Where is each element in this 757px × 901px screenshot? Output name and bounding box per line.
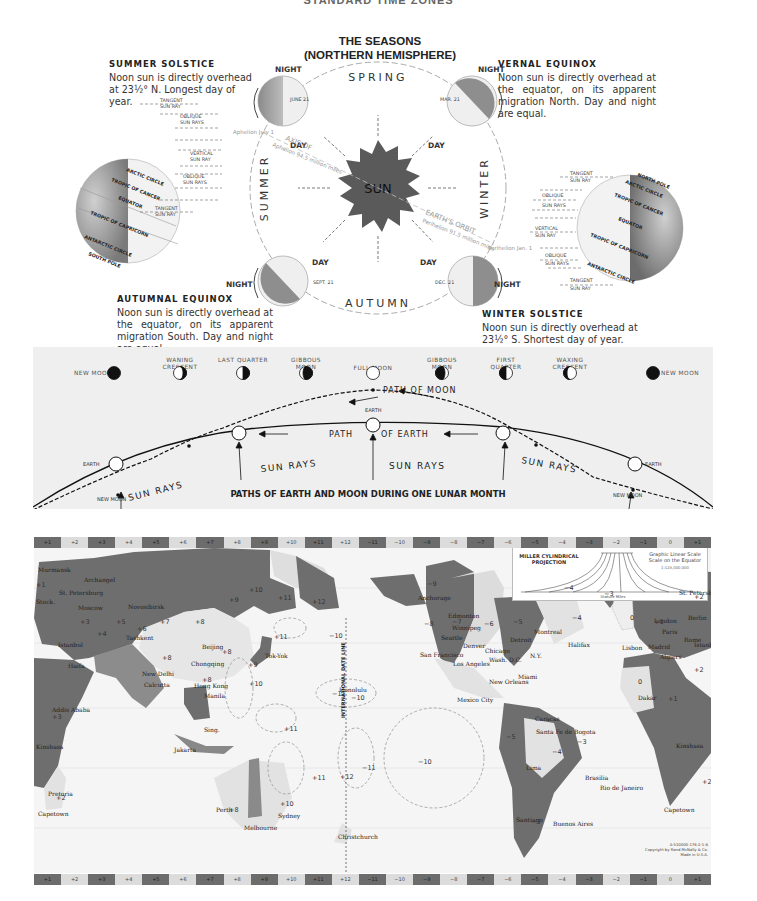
- zone-offset-label: −5: [506, 733, 516, 741]
- zone-offset-label: +2: [702, 778, 711, 786]
- zone-cell: +10: [278, 874, 305, 885]
- path-of-earth-label-1: PATH: [329, 430, 353, 439]
- city-label: N.Y.: [530, 652, 542, 659]
- city-label: Stock.: [36, 598, 55, 605]
- svg-text:SUN RAY: SUN RAY: [160, 104, 181, 109]
- zone-cell: −7: [467, 874, 494, 885]
- sun-label: SUN: [364, 181, 392, 196]
- svg-text:VERTICAL: VERTICAL: [535, 226, 558, 231]
- city-label: Santa Fe de Bogota: [536, 728, 596, 735]
- earth-label-2: EARTH: [365, 407, 382, 413]
- city-label: Algiers: [660, 653, 682, 660]
- dec-date: DEC. 21: [435, 280, 454, 285]
- international-date-line-label: INTERNATIONAL DATE LINE: [340, 642, 346, 718]
- zone-cell: +5: [142, 537, 169, 548]
- city-label: Calcutta: [144, 681, 170, 688]
- perihelion-label: Perihelion Jan. 1: [488, 245, 532, 252]
- city-label: Los Angeles: [453, 660, 490, 667]
- zone-offset-label: +12: [312, 598, 326, 606]
- svg-text:SUN RAYS: SUN RAYS: [183, 180, 207, 185]
- zone-offset-label: +2: [56, 794, 66, 802]
- zone-offset-label: +1: [36, 581, 46, 589]
- gibbous-waxing-icon: [436, 367, 449, 380]
- city-label: Caracas: [535, 715, 560, 722]
- zone-offset-label: +11: [274, 633, 288, 641]
- zone-offset-label: +12: [340, 773, 354, 781]
- city-label: Sing.: [204, 726, 220, 733]
- june-night-label: NIGHT: [275, 65, 303, 74]
- city-label: Addis Ababa: [52, 706, 90, 713]
- zone-offset-label: −3: [604, 590, 614, 598]
- zone-cell: +1: [34, 874, 61, 885]
- march-date: MAR. 21: [440, 97, 460, 102]
- zone-offset-label: +8: [222, 648, 232, 656]
- sept-date: SEPT. 21: [313, 280, 333, 285]
- city-label: Kinshasa: [676, 742, 703, 749]
- zone-cell: +12: [332, 874, 359, 885]
- zone-offset-label: +9: [248, 661, 258, 669]
- zone-cell: −3: [576, 537, 603, 548]
- city-label: Melbourne: [244, 824, 277, 831]
- march-day-label: DAY: [428, 141, 445, 150]
- autumn-label: AUTUMN: [345, 297, 411, 310]
- map-credit: A-510000-176-2-1-8 Copyright by Rand McN…: [644, 842, 708, 857]
- city-label: Capetown: [38, 810, 69, 817]
- zone-offset-label: −9: [427, 580, 437, 588]
- lunar-caption: PATHS OF EARTH AND MOON DURING ONE LUNAR…: [230, 489, 505, 499]
- zone-cell: −9: [413, 874, 440, 885]
- city-label: Sydney: [278, 812, 300, 819]
- zone-offset-label: −3: [531, 818, 541, 826]
- city-label: Buenos Aires: [553, 820, 593, 827]
- zone-cell: −3: [576, 874, 603, 885]
- svg-text:TANGENT: TANGENT: [154, 206, 178, 211]
- waxing-crescent-icon: [564, 367, 577, 380]
- svg-text:TANGENT: TANGENT: [569, 171, 593, 176]
- zone-cell: −4: [548, 537, 575, 548]
- zone-cell: +9: [251, 874, 278, 885]
- zone-cell: −2: [603, 874, 630, 885]
- city-label: Istanbul: [694, 641, 711, 648]
- lunar-month-diagram: NEW MOON WANING CRESCENT LAST QUARTER GI…: [33, 347, 713, 509]
- world-map: INTERNATIONAL DATE LINE MILLER CYLINDRIC…: [34, 548, 711, 873]
- city-label: Anchorage: [418, 594, 451, 601]
- zone-offset-label: −3: [577, 738, 587, 746]
- city-label: Christchurch: [338, 833, 378, 840]
- march-night-label: NIGHT: [478, 65, 506, 74]
- city-label: Rio de Janeiro: [600, 784, 643, 791]
- earth-label-3: EARTH: [645, 461, 662, 467]
- zone-offset-label: +8: [202, 676, 212, 684]
- city-label: Wash. D.C.: [489, 656, 522, 663]
- zone-offset-label: −5: [513, 618, 523, 626]
- zone-cell: +6: [169, 874, 196, 885]
- city-label: Archangel: [84, 576, 115, 583]
- zone-offset-label: 0: [630, 614, 634, 622]
- svg-text:OBLIQUE: OBLIQUE: [183, 174, 204, 179]
- zone-cell: +11: [305, 874, 332, 885]
- zone-offset-label: +1: [668, 695, 678, 703]
- zone-cell: +9: [251, 537, 278, 548]
- city-label: Lisbon: [622, 644, 642, 651]
- city-label: Brasilia: [585, 774, 608, 781]
- zone-cell: 0: [657, 537, 684, 548]
- zone-cell: −5: [521, 537, 548, 548]
- zone-offset-label: +9: [229, 596, 239, 604]
- new-moon-label-2: NEW MOON: [613, 492, 643, 498]
- svg-text:SUN RAY: SUN RAY: [190, 157, 211, 162]
- zone-offset-label: +10: [249, 680, 263, 688]
- zone-offset-label: +10: [280, 800, 294, 808]
- zone-cell: +11: [305, 537, 332, 548]
- lunar-paths-svg: PATH OF MOON PATH OF EARTH EARTH EARTH E…: [33, 347, 713, 509]
- zone-offset-label: −7: [452, 618, 462, 626]
- earth-label-1: EARTH: [83, 461, 100, 467]
- zone-cell: +8: [224, 537, 251, 548]
- zone-cell: −7: [467, 537, 494, 548]
- zone-offset-label: +11: [312, 774, 326, 782]
- credit-made-in: Made in U.S.A.: [644, 852, 708, 857]
- zone-offset-label: −10: [351, 694, 365, 702]
- city-label: Chicago: [485, 647, 510, 654]
- city-label: Dakar: [638, 694, 656, 701]
- zone-offset-label: 0: [638, 678, 642, 686]
- zone-cell: +8: [224, 874, 251, 885]
- zone-cell: +2: [61, 537, 88, 548]
- city-label: Madrid: [648, 643, 670, 650]
